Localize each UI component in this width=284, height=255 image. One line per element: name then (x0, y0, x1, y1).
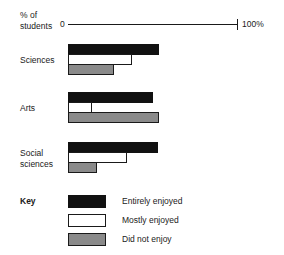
legend-swatch (68, 233, 106, 246)
legend-swatch (68, 195, 106, 208)
axis-max-tick-mark (237, 19, 238, 30)
category-label: Socialsciences (20, 148, 68, 170)
axis-min-tick-label: 0 (60, 19, 65, 29)
bar (68, 112, 159, 123)
legend-item: Did not enjoy (68, 230, 182, 249)
bar-stack (68, 142, 158, 172)
stacked-bar-chart: % of students 0 100% SciencesArtsSocials… (0, 0, 284, 255)
category-label-line1: Social (20, 148, 68, 159)
axis-line (68, 24, 237, 25)
category-label-line2: sciences (20, 159, 68, 170)
category-label: Arts (20, 103, 68, 114)
bar-stack (68, 92, 159, 122)
legend-label: Did not enjoy (122, 234, 172, 245)
legend-item: Mostly enjoyed (68, 211, 182, 230)
category-label-line1: Sciences (20, 55, 68, 66)
bar-stack (68, 44, 159, 74)
legend-label: Mostly enjoyed (122, 215, 179, 226)
legend-items: Entirely enjoyedMostly enjoyedDid not en… (68, 192, 182, 249)
legend-item: Entirely enjoyed (68, 192, 182, 211)
axis-max-tick-label: 100% (242, 19, 264, 29)
bar (68, 64, 114, 75)
bar (68, 162, 97, 173)
legend-swatch (68, 214, 106, 227)
legend-title: Key (20, 196, 36, 207)
legend-label: Entirely enjoyed (122, 196, 182, 207)
category-label: Sciences (20, 55, 68, 66)
category-label-line1: Arts (20, 103, 68, 114)
